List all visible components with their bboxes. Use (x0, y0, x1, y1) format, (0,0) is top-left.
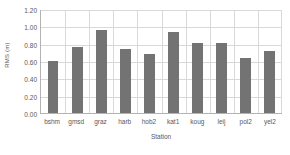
bar-slot (234, 10, 258, 113)
bar-slot (137, 10, 161, 113)
y-tick-label: 0.80 (24, 41, 37, 48)
x-tick-label: leij (209, 118, 233, 125)
bar[interactable] (192, 43, 203, 113)
bar-slot (89, 10, 113, 113)
x-tick-label: kat1 (161, 118, 185, 125)
y-axis-tick-labels: 0.000.200.400.600.801.001.20 (12, 10, 37, 114)
x-tick-label: harb (113, 118, 137, 125)
bar[interactable] (96, 30, 107, 113)
bar-slot (41, 10, 65, 113)
bar-slot (210, 10, 234, 113)
bar-slot (113, 10, 137, 113)
bar[interactable] (144, 54, 155, 113)
x-tick-label: gmsd (64, 118, 88, 125)
x-axis-tick-labels: bshmgmsdgrazharbhob2kat1kougleijpol2yel2 (40, 118, 282, 125)
bar-slot (258, 10, 282, 113)
bar-slot (186, 10, 210, 113)
bar[interactable] (216, 43, 227, 113)
y-tick-label: 0.20 (24, 93, 37, 100)
plot-area (40, 10, 282, 114)
bar[interactable] (264, 51, 275, 113)
x-axis-title: Station (40, 133, 282, 140)
bar[interactable] (240, 58, 251, 113)
x-tick-label: yel2 (258, 118, 282, 125)
bar[interactable] (168, 32, 179, 113)
x-tick-label: hob2 (137, 118, 161, 125)
bar[interactable] (120, 49, 131, 113)
x-tick-label: koug (185, 118, 209, 125)
y-axis-title: RMS (m) (4, 27, 10, 83)
bar-chart: RMS (m) 0.000.200.400.600.801.001.20 bsh… (0, 0, 290, 155)
bar[interactable] (48, 61, 59, 113)
y-tick-label: 0.40 (24, 76, 37, 83)
y-tick-label: 1.00 (24, 24, 37, 31)
x-tick-label: bshm (40, 118, 64, 125)
bar[interactable] (72, 47, 83, 113)
x-tick-label: graz (88, 118, 112, 125)
bar-series (41, 10, 282, 113)
bar-slot (161, 10, 185, 113)
x-tick-label: pol2 (234, 118, 258, 125)
y-tick-label: 1.20 (24, 7, 37, 14)
y-tick-label: 0.60 (24, 59, 37, 66)
y-tick-label: 0.00 (24, 111, 37, 118)
bar-slot (65, 10, 89, 113)
